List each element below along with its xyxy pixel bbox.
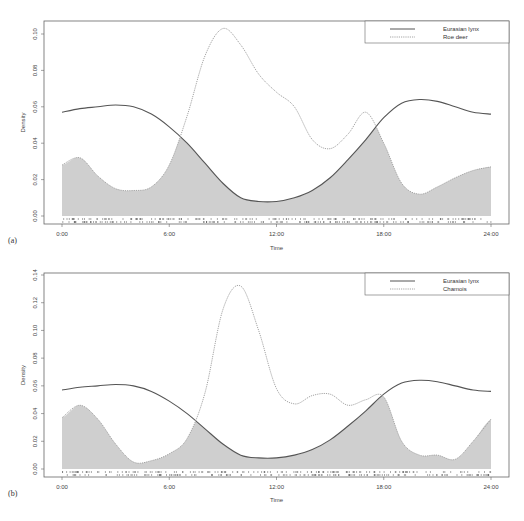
- y-tick-label: 0.10: [32, 324, 38, 336]
- y-tick-label: 0.08: [32, 64, 38, 76]
- x-axis-title: Time: [270, 245, 284, 251]
- y-tick-label: 0.08: [32, 352, 38, 364]
- roe-deer-line: [62, 28, 491, 194]
- x-tick-label: 24:00: [483, 231, 499, 237]
- y-tick-label: 0.06: [32, 100, 38, 112]
- y-tick-label: 0.12: [32, 296, 38, 308]
- x-axis-title: Time: [270, 497, 284, 503]
- x-tick-label: 24:00: [483, 484, 499, 490]
- eurasian-lynx-line: [62, 99, 491, 201]
- panel-label: (b): [8, 489, 18, 498]
- y-tick-label: 0.02: [32, 435, 38, 447]
- legend-label: Roe deer: [443, 34, 468, 40]
- legend: Eurasian lynxRoe deer: [365, 21, 509, 43]
- y-tick-label: 0.02: [32, 173, 38, 185]
- prey-rug: [64, 218, 481, 220]
- y-tick-label: 0.10: [32, 28, 38, 40]
- panel-label: (a): [8, 236, 17, 245]
- y-axis-title: Density: [20, 112, 26, 132]
- lynx-rug: [67, 474, 488, 476]
- chamois-line: [62, 285, 491, 463]
- x-tick-label: 0:00: [56, 231, 68, 237]
- x-tick-label: 6:00: [163, 484, 175, 490]
- y-tick-label: 0.00: [32, 463, 38, 475]
- legend-label: Chamois: [443, 286, 467, 292]
- y-tick-label: 0.14: [32, 269, 38, 281]
- x-tick-label: 12:00: [269, 231, 285, 237]
- panel-a: 0.000.020.040.060.080.10Density0:006:001…: [8, 21, 509, 251]
- y-tick-label: 0.04: [32, 407, 38, 419]
- x-tick-label: 0:00: [56, 484, 68, 490]
- eurasian-lynx-line: [62, 380, 491, 458]
- x-tick-label: 6:00: [163, 231, 175, 237]
- legend-label: Eurasian lynx: [443, 26, 479, 32]
- prey-rug: [63, 471, 491, 473]
- y-tick-label: 0.06: [32, 379, 38, 391]
- x-tick-label: 18:00: [376, 231, 392, 237]
- panel-b: 0.000.020.040.060.080.100.120.14Density0…: [8, 269, 509, 503]
- x-tick-label: 12:00: [269, 484, 285, 490]
- legend-label: Eurasian lynx: [443, 278, 479, 284]
- lynx-rug: [63, 221, 491, 223]
- legend: Eurasian lynxChamois: [365, 273, 509, 295]
- activity-overlap-figure: 0.000.020.040.060.080.10Density0:006:001…: [0, 0, 524, 521]
- x-tick-label: 18:00: [376, 484, 392, 490]
- overlap-area: [62, 128, 491, 216]
- y-tick-label: 0.00: [32, 210, 38, 222]
- y-tick-label: 0.04: [32, 137, 38, 149]
- y-axis-title: Density: [20, 365, 26, 385]
